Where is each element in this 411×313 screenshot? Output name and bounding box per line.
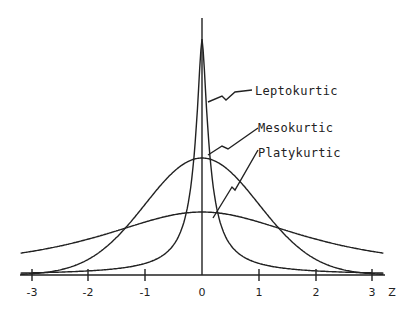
mesokurtic-pointer [208,128,258,155]
platykurtic-pointer [213,150,258,218]
curves [0,0,411,313]
platykurtic-label: Platykurtic [258,146,341,160]
tick-label: -2 [83,286,94,299]
tick-label: 3 [369,286,376,299]
kurtosis-diagram: Leptokurtic Mesokurtic Platykurtic -3 -2… [0,0,411,313]
tick-label: 1 [256,286,263,299]
leptokurtic-label: Leptokurtic [255,84,338,98]
tick-label: -3 [27,286,38,299]
tick-label: 0 [199,286,206,299]
mesokurtic-label: Mesokurtic [258,121,333,135]
axis-label-z: Z [388,286,396,299]
tick-label: -1 [140,286,151,299]
leptokurtic-pointer [208,90,252,102]
tick-label: 2 [313,286,320,299]
